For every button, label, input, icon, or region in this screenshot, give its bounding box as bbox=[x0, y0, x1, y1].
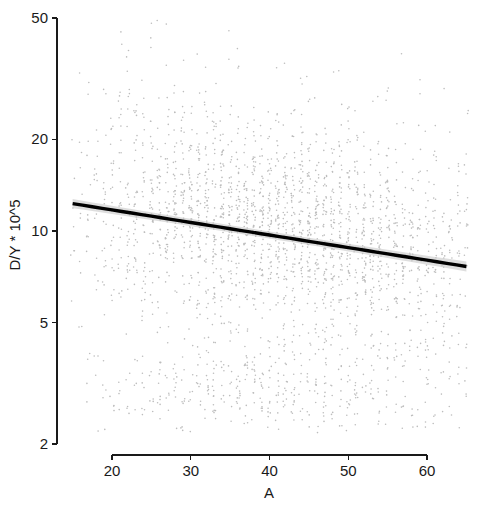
scatter-point bbox=[315, 332, 317, 334]
scatter-point bbox=[309, 213, 311, 215]
scatter-point bbox=[291, 195, 293, 197]
scatter-point bbox=[448, 167, 450, 169]
scatter-point bbox=[113, 289, 115, 291]
scatter-point bbox=[152, 252, 154, 254]
scatter-point bbox=[387, 167, 389, 169]
scatter-point bbox=[403, 225, 405, 227]
scatter-point bbox=[395, 263, 397, 265]
scatter-point bbox=[269, 262, 271, 264]
scatter-point bbox=[128, 96, 130, 98]
scatter-point bbox=[96, 180, 98, 182]
scatter-point bbox=[121, 217, 123, 219]
scatter-point bbox=[467, 247, 469, 249]
scatter-point bbox=[136, 104, 138, 106]
scatter-point bbox=[318, 204, 320, 206]
scatter-point bbox=[118, 268, 120, 270]
scatter-point bbox=[282, 226, 284, 228]
scatter-point bbox=[269, 229, 271, 231]
scatter-point bbox=[239, 282, 241, 284]
scatter-point bbox=[341, 280, 343, 282]
scatter-point bbox=[166, 207, 168, 209]
scatter-point bbox=[357, 282, 359, 284]
scatter-point bbox=[433, 197, 435, 199]
scatter-point bbox=[286, 270, 288, 272]
scatter-point bbox=[287, 202, 289, 204]
scatter-point bbox=[307, 262, 309, 264]
scatter-point bbox=[152, 160, 154, 162]
scatter-point bbox=[86, 401, 88, 403]
scatter-point bbox=[133, 206, 135, 208]
scatter-point bbox=[379, 172, 381, 174]
scatter-point bbox=[118, 293, 120, 295]
scatter-point bbox=[394, 218, 396, 220]
scatter-point bbox=[380, 195, 382, 197]
scatter-point bbox=[254, 282, 256, 284]
scatter-point bbox=[81, 326, 83, 328]
scatter-point bbox=[425, 314, 427, 316]
scatter-point bbox=[129, 89, 131, 91]
scatter-point bbox=[341, 150, 343, 152]
scatter-point bbox=[356, 139, 358, 141]
scatter-point bbox=[128, 50, 130, 52]
scatter-point bbox=[96, 257, 98, 259]
scatter-point bbox=[346, 242, 348, 244]
scatter-point bbox=[325, 292, 327, 294]
scatter-point bbox=[459, 307, 461, 309]
scatter-point bbox=[405, 143, 407, 145]
scatter-point bbox=[292, 288, 294, 290]
scatter-point bbox=[364, 219, 366, 221]
scatter-point bbox=[386, 208, 388, 210]
scatter-point bbox=[270, 182, 272, 184]
scatter-point bbox=[348, 128, 350, 130]
scatter-point bbox=[308, 215, 310, 217]
scatter-point bbox=[284, 264, 286, 266]
scatter-point bbox=[80, 272, 82, 274]
scatter-point bbox=[426, 170, 428, 172]
scatter-point bbox=[419, 228, 421, 230]
scatter-point bbox=[152, 411, 154, 413]
scatter-point bbox=[347, 407, 349, 409]
scatter-point bbox=[387, 276, 389, 278]
scatter-point bbox=[357, 258, 359, 260]
scatter-point bbox=[341, 269, 343, 271]
scatter-point bbox=[134, 409, 136, 411]
scatter-point bbox=[364, 184, 366, 186]
scatter-point bbox=[330, 252, 332, 254]
scatter-point bbox=[456, 316, 458, 318]
scatter-point bbox=[355, 206, 357, 208]
scatter-point bbox=[464, 211, 466, 213]
scatter-point bbox=[456, 306, 458, 308]
scatter-point bbox=[174, 190, 176, 192]
scatter-point bbox=[165, 281, 167, 283]
scatter-point bbox=[188, 170, 190, 172]
scatter-point bbox=[166, 65, 168, 67]
scatter-point bbox=[378, 421, 380, 423]
scatter-point bbox=[323, 224, 325, 226]
scatter-point bbox=[150, 37, 152, 39]
scatter-point bbox=[298, 394, 300, 396]
scatter-point bbox=[465, 395, 467, 397]
scatter-point bbox=[243, 256, 245, 258]
scatter-point bbox=[87, 214, 89, 216]
scatter-point bbox=[293, 243, 295, 245]
scatter-point bbox=[230, 176, 232, 178]
scatter-point bbox=[364, 172, 366, 174]
scatter-point bbox=[314, 227, 316, 229]
scatter-point bbox=[323, 282, 325, 284]
scatter-point bbox=[324, 178, 326, 180]
scatter-point bbox=[189, 205, 191, 207]
scatter-point bbox=[333, 192, 335, 194]
scatter-point bbox=[189, 174, 191, 176]
scatter-point bbox=[255, 217, 257, 219]
scatter-point bbox=[325, 279, 327, 281]
scatter-point bbox=[270, 245, 272, 247]
scatter-point bbox=[158, 175, 160, 177]
scatter-point bbox=[221, 323, 223, 325]
scatter-point bbox=[349, 379, 351, 381]
scatter-point bbox=[357, 305, 359, 307]
scatter-point bbox=[184, 182, 186, 184]
scatter-point bbox=[188, 328, 190, 330]
scatter-point bbox=[238, 205, 240, 207]
scatter-point bbox=[286, 279, 288, 281]
scatter-point bbox=[433, 337, 435, 339]
